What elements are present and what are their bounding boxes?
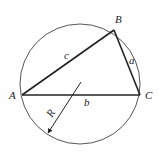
vertex-label-b: B xyxy=(115,13,122,25)
vertex-label-c: C xyxy=(145,89,153,101)
side-label-a: a xyxy=(129,54,135,66)
side-label-c: c xyxy=(64,49,69,61)
vertex-label-a: A xyxy=(8,89,16,101)
radius-label: R xyxy=(43,107,57,120)
side-c-line xyxy=(22,30,114,95)
side-label-b: b xyxy=(84,96,90,108)
radius-arrow xyxy=(48,82,81,133)
circumcircle-diagram: A B C c a b R xyxy=(0,0,159,153)
